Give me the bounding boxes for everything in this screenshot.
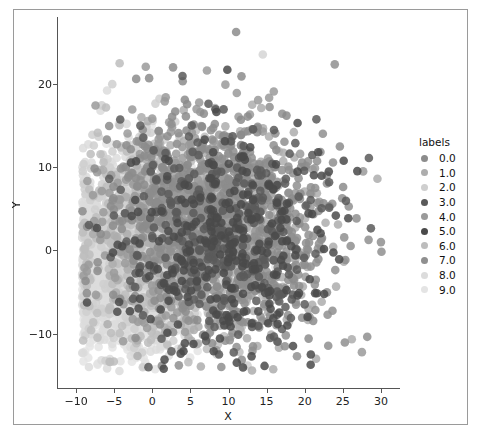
legend-entry-label: 4.0 <box>439 211 456 223</box>
x-tick-label: −5 <box>106 395 122 408</box>
legend-entry-label: 0.0 <box>439 152 456 164</box>
y-tick-label: 0 <box>45 244 52 257</box>
legend-entry[interactable]: 7.0 <box>418 253 474 268</box>
x-tick-label: 30 <box>374 395 388 408</box>
x-tick-label: −10 <box>64 395 87 408</box>
y-tick-mark <box>53 334 57 335</box>
x-tick-mark <box>343 389 344 393</box>
x-tick-label: 5 <box>187 395 194 408</box>
x-tick-label: 10 <box>222 395 236 408</box>
legend-entry-label: 1.0 <box>439 167 456 179</box>
legend-entry[interactable]: 8.0 <box>418 268 474 283</box>
y-tick-mark <box>53 84 57 85</box>
legend-marker-icon <box>421 257 428 264</box>
legend-entry[interactable]: 9.0 <box>418 282 474 297</box>
legend-entry[interactable]: 5.0 <box>418 224 474 239</box>
x-axis-label: X <box>224 410 232 423</box>
legend-marker-icon <box>421 169 428 176</box>
x-tick-mark <box>305 389 306 393</box>
legend-marker-icon <box>421 242 428 249</box>
legend-marker-icon <box>421 228 428 235</box>
x-tick-label: 25 <box>336 395 350 408</box>
x-tick-mark <box>76 389 77 393</box>
legend-entry[interactable]: 4.0 <box>418 209 474 224</box>
legend-entry-label: 7.0 <box>439 254 456 266</box>
legend-entry[interactable]: 6.0 <box>418 239 474 254</box>
scatter-points-layer <box>57 17 400 388</box>
legend-entry-label: 5.0 <box>439 225 456 237</box>
legend-entry-label: 9.0 <box>439 284 456 296</box>
x-tick-label: 15 <box>260 395 274 408</box>
legend-marker-icon <box>421 155 428 162</box>
x-tick-mark <box>114 389 115 393</box>
legend-entry-label: 8.0 <box>439 269 456 281</box>
legend-marker-icon <box>421 272 428 279</box>
x-tick-mark <box>229 389 230 393</box>
x-tick-mark <box>152 389 153 393</box>
legend-marker-icon <box>421 184 428 191</box>
figure-canvas: −10−5051015202530 −1001020 X Y labels 0.… <box>0 0 481 441</box>
legend-entry[interactable]: 0.0 <box>418 151 474 166</box>
legend-entry[interactable]: 1.0 <box>418 166 474 181</box>
legend-entry-label: 6.0 <box>439 240 456 252</box>
legend-entry-label: 2.0 <box>439 181 456 193</box>
x-tick-mark <box>381 389 382 393</box>
y-axis-label: Y <box>10 202 23 209</box>
legend: labels 0.01.02.03.04.05.06.07.08.09.0 <box>418 136 474 297</box>
y-tick-label: −10 <box>29 327 52 340</box>
legend-title: labels <box>419 136 474 148</box>
legend-marker-icon <box>421 213 428 220</box>
legend-entry[interactable]: 3.0 <box>418 195 474 210</box>
y-axis-spine <box>57 17 58 388</box>
y-tick-label: 10 <box>38 161 52 174</box>
legend-entry[interactable]: 2.0 <box>418 180 474 195</box>
y-tick-label: 20 <box>38 77 52 90</box>
x-tick-label: 0 <box>149 395 156 408</box>
x-tick-label: 20 <box>298 395 312 408</box>
y-tick-mark <box>53 250 57 251</box>
y-tick-mark <box>53 167 57 168</box>
legend-marker-icon <box>421 286 428 293</box>
x-tick-mark <box>267 389 268 393</box>
legend-marker-icon <box>421 199 428 206</box>
legend-entry-label: 3.0 <box>439 196 456 208</box>
x-tick-mark <box>190 389 191 393</box>
legend-entry-list: 0.01.02.03.04.05.06.07.08.09.0 <box>418 151 474 297</box>
